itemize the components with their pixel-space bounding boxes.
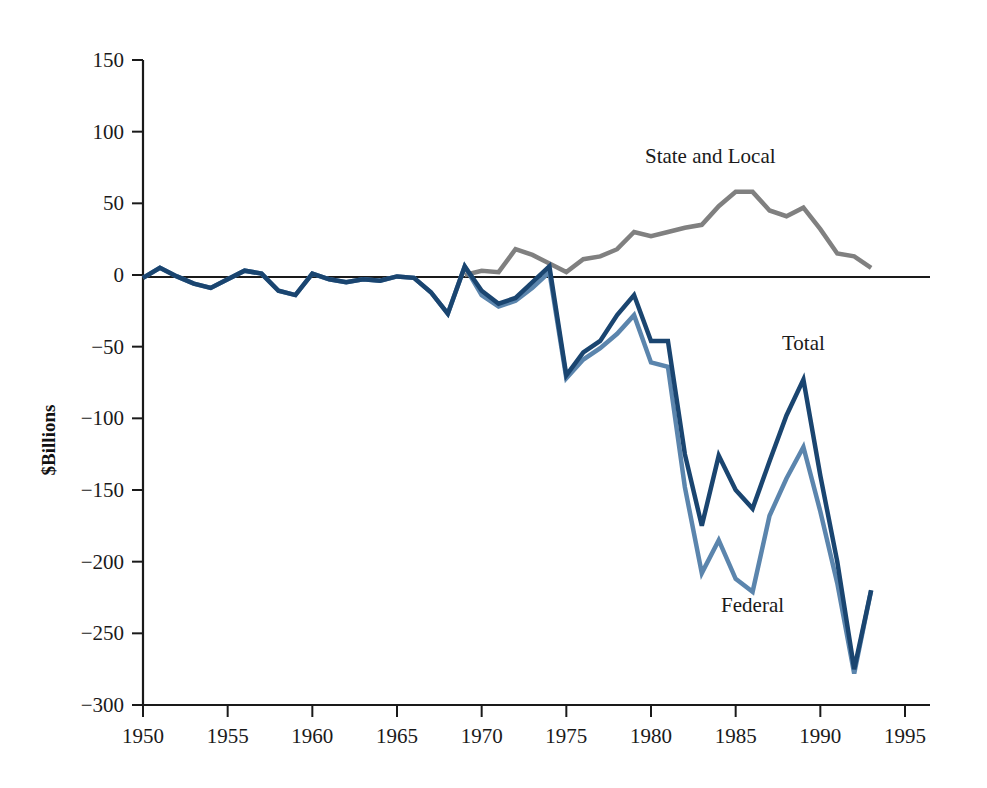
chart-figure: 150100500−50−100−150−200−250−300 1950195…: [0, 0, 987, 788]
y-tick-label: 0: [114, 263, 125, 287]
y-tick-label: −250: [81, 621, 124, 645]
y-tick-label: −200: [81, 550, 124, 574]
x-tick-label: 1970: [461, 724, 503, 748]
y-axis-ticks: 150100500−50−100−150−200−250−300: [81, 48, 143, 717]
series-label-federal: Federal: [721, 593, 784, 617]
x-tick-label: 1960: [291, 724, 333, 748]
y-tick-label: 150: [93, 48, 125, 72]
x-tick-label: 1975: [545, 724, 587, 748]
series-label-total: Total: [782, 331, 825, 355]
x-tick-label: 1955: [207, 724, 249, 748]
y-tick-label: 100: [93, 120, 125, 144]
y-axis-title: $Billions: [38, 405, 59, 476]
x-tick-label: 1950: [122, 724, 164, 748]
y-tick-label: 50: [103, 191, 124, 215]
x-tick-label: 1965: [376, 724, 418, 748]
y-tick-label: −100: [81, 406, 124, 430]
series-label-state-and-local: State and Local: [645, 144, 776, 168]
line-chart: 150100500−50−100−150−200−250−300 1950195…: [0, 0, 987, 788]
x-tick-label: 1990: [799, 724, 841, 748]
y-tick-label: −150: [81, 478, 124, 502]
x-tick-label: 1995: [884, 724, 926, 748]
y-tick-label: −50: [91, 335, 124, 359]
x-tick-label: 1980: [630, 724, 672, 748]
x-tick-label: 1985: [715, 724, 757, 748]
series-line-state-and-local: [465, 192, 871, 275]
x-axis-ticks: 1950195519601965197019751980198519901995: [122, 705, 926, 748]
y-tick-label: −300: [81, 693, 124, 717]
